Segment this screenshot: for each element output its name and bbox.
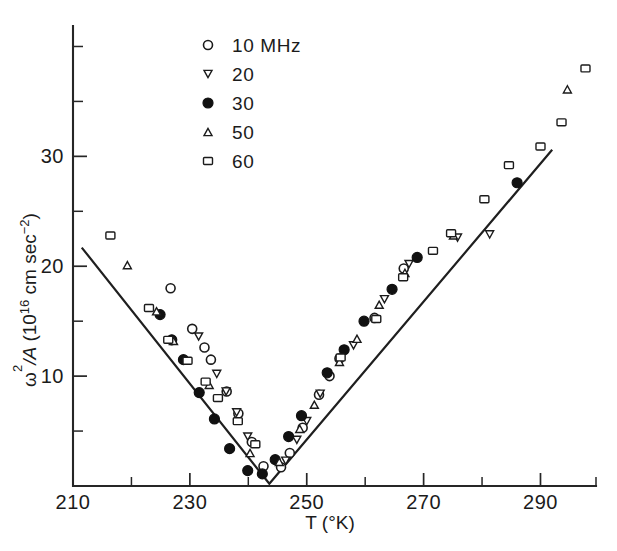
y-tick-label: 30 xyxy=(41,145,64,167)
data-point-marker xyxy=(372,316,381,323)
data-point-marker xyxy=(194,388,204,398)
legend-marker-filled-circle xyxy=(203,98,213,108)
data-points-layer xyxy=(106,65,590,479)
data-point-marker xyxy=(183,357,192,364)
data-point-marker xyxy=(512,178,522,188)
data-point-marker xyxy=(447,230,456,237)
data-point-marker xyxy=(563,86,571,93)
data-point-marker xyxy=(339,345,349,355)
data-point-marker xyxy=(284,432,294,442)
data-point-marker xyxy=(428,247,437,254)
legend-label: 30 xyxy=(232,93,254,114)
data-series-30 xyxy=(155,178,522,479)
legend-label: 60 xyxy=(232,151,254,172)
data-point-marker xyxy=(359,316,369,326)
data-point-marker xyxy=(399,274,408,281)
data-point-marker xyxy=(209,414,219,424)
data-point-marker xyxy=(387,284,397,294)
legend-item-50: 50 xyxy=(204,122,254,143)
legend-marker-up-triangle xyxy=(204,128,212,135)
x-tick-label: 210 xyxy=(56,491,91,513)
data-point-marker xyxy=(213,395,222,402)
data-point-marker xyxy=(166,284,175,293)
y-axis-title-text: ω2/A (1016 cm sec−2) xyxy=(10,213,41,387)
data-point-marker xyxy=(106,232,115,239)
legend-label: 50 xyxy=(232,122,254,143)
legend: 10 MHz20305060 xyxy=(203,35,301,172)
x-tick-label: 290 xyxy=(523,491,558,513)
legend-item-20: 20 xyxy=(204,64,254,85)
data-point-marker xyxy=(200,343,209,352)
legend-marker-open-square xyxy=(204,158,213,165)
data-point-marker xyxy=(251,441,260,448)
data-point-marker xyxy=(225,444,235,454)
legend-marker-down-triangle xyxy=(204,70,212,77)
data-point-marker xyxy=(243,466,253,476)
data-point-marker xyxy=(213,370,221,377)
data-point-marker xyxy=(557,119,566,126)
legend-label: 10 MHz xyxy=(232,35,301,56)
data-point-marker xyxy=(257,469,267,479)
x-axis-title-text: T (°K) xyxy=(305,512,354,533)
data-point-marker xyxy=(233,418,242,425)
data-point-marker xyxy=(195,333,203,340)
data-point-marker xyxy=(144,305,153,312)
x-tick-label: 230 xyxy=(172,491,207,513)
data-point-marker xyxy=(310,401,318,408)
data-point-marker xyxy=(201,378,210,385)
data-point-marker xyxy=(123,262,131,269)
data-point-marker xyxy=(412,252,422,262)
data-point-marker xyxy=(504,162,513,169)
data-point-marker xyxy=(296,411,306,421)
data-series-50 xyxy=(123,86,571,466)
data-point-marker xyxy=(188,324,197,333)
legend-item-60: 60 xyxy=(204,151,255,172)
data-point-marker xyxy=(375,301,383,308)
data-point-marker xyxy=(353,335,361,342)
plot-axes xyxy=(73,26,596,486)
legend-label: 20 xyxy=(232,64,254,85)
axis-ticks xyxy=(73,46,596,486)
data-point-marker xyxy=(336,354,345,361)
x-tick-label: 270 xyxy=(406,491,441,513)
x-axis-title: T (°K) xyxy=(305,512,354,533)
data-point-marker xyxy=(285,449,294,458)
data-point-marker xyxy=(480,196,489,203)
data-point-marker xyxy=(246,449,254,456)
scatter-plot: 210230250270290102030 10 MHz20305060 T (… xyxy=(0,0,617,551)
data-point-marker xyxy=(164,336,173,343)
data-point-marker xyxy=(536,143,545,150)
data-point-marker xyxy=(322,368,332,378)
legend-item-30: 30 xyxy=(203,93,254,114)
x-tick-label: 250 xyxy=(289,491,324,513)
y-tick-label: 10 xyxy=(41,365,64,387)
data-point-marker xyxy=(486,231,494,238)
legend-marker-open-circle xyxy=(204,41,213,50)
data-point-marker xyxy=(581,65,590,72)
y-axis-title: ω2/A (1016 cm sec−2) xyxy=(10,213,41,387)
y-tick-label: 20 xyxy=(41,255,64,277)
data-point-marker xyxy=(206,355,215,364)
data-point-marker xyxy=(380,296,388,303)
legend-item-10-mhz: 10 MHz xyxy=(204,35,302,56)
chart-figure: 210230250270290102030 10 MHz20305060 T (… xyxy=(0,0,617,551)
